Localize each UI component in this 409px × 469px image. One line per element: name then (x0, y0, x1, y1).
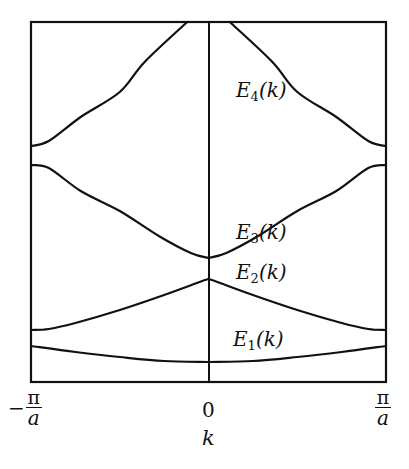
x-axis-label: k (202, 428, 215, 449)
tick-neg-pi-over-a: −πa (8, 388, 42, 428)
band-curve-E2-right (209, 279, 387, 330)
band-curve-E3-left (31, 165, 209, 258)
label-E1: E1(k) (233, 329, 284, 352)
band-curve-E2-left (31, 279, 209, 330)
tick-zero: 0 (202, 400, 215, 420)
label-E2: E2(k) (236, 262, 287, 285)
tick-pi-over-a: πa (375, 388, 391, 428)
band-curve-E1-left (31, 346, 209, 362)
label-E4: E4(k) (236, 80, 287, 103)
label-E3: E3(k) (236, 222, 287, 245)
band-curve-E4-left (31, 22, 187, 146)
